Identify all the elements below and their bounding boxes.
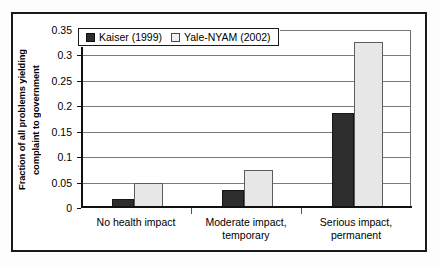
x-category-label: Serious impact,permanent [301, 216, 411, 241]
y-axis-line [81, 30, 83, 208]
x-category-label: Moderate impact,temporary [191, 216, 301, 241]
bar-yale-nyam [134, 183, 163, 208]
bar-kaiser [332, 113, 354, 208]
y-tick-label: 0.3 [32, 49, 72, 61]
y-tick-mark [77, 208, 81, 209]
x-axis-separator [191, 208, 192, 214]
bar-yale-nyam [244, 170, 273, 208]
bar-yale-nyam [354, 42, 383, 208]
plot-area: 00.050.10.150.20.250.30.35 No health imp… [81, 30, 411, 208]
y-tick-label: 0.1 [32, 151, 72, 163]
y-tick-label: 0.2 [32, 100, 72, 112]
chart-figure: Fraction of all problems yielding compla… [0, 0, 439, 267]
dark-square-icon [86, 33, 95, 42]
x-category-label-line: No health impact [81, 216, 191, 229]
y-tick-label: 0.25 [32, 75, 72, 87]
chart-legend: Kaiser (1999) Yale-NYAM (2002) [78, 28, 279, 46]
y-axis-title-line-1: Fraction of all problems yielding [14, 20, 29, 220]
x-category-label-line: temporary [191, 229, 301, 242]
x-category-label-line: Moderate impact, [191, 216, 301, 229]
y-tick-label: 0.35 [32, 24, 72, 36]
y-tick-label: 0.15 [32, 126, 72, 138]
legend-label-kaiser: Kaiser (1999) [99, 31, 162, 43]
y-tick-label: 0 [32, 202, 72, 214]
x-category-label-line: permanent [301, 229, 411, 242]
light-square-icon [171, 33, 180, 42]
y-tick-label: 0.05 [32, 177, 72, 189]
legend-item-kaiser: Kaiser (1999) [86, 31, 162, 43]
x-axis-line [81, 206, 412, 208]
legend-label-yale-nyam: Yale-NYAM (2002) [184, 31, 271, 43]
x-axis-separator [301, 208, 302, 214]
legend-item-yale-nyam: Yale-NYAM (2002) [171, 31, 271, 43]
x-category-label-line: Serious impact, [301, 216, 411, 229]
x-category-label: No health impact [81, 216, 191, 229]
